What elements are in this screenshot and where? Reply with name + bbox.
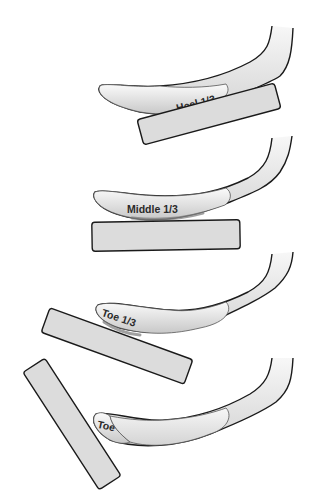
- figure-toe-third: Toe 1/3: [41, 252, 293, 384]
- blade-contact-diagram: Heel 1/3 Middle 1/3 Toe 1/3 Toe: [0, 0, 310, 490]
- toe-mid-zone: [110, 408, 229, 445]
- figure-heel: Heel 1/3: [99, 26, 293, 145]
- figure-toe: Toe: [23, 358, 293, 490]
- figure-middle: Middle 1/3: [92, 136, 292, 251]
- contact-block: [92, 220, 240, 252]
- label-middle: Middle 1/3: [127, 203, 178, 215]
